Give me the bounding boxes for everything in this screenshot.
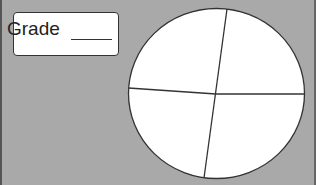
- circle-divided-into-quarters: [2, 0, 316, 185]
- worksheet-card: Grade: [0, 0, 316, 185]
